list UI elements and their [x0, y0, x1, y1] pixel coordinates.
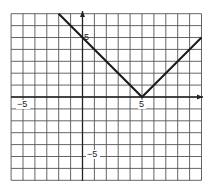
x-axis-arrow-icon: [197, 95, 203, 100]
x-tick-label-neg5: −5: [17, 99, 27, 109]
y-tick-label-5: 5: [84, 32, 89, 42]
x-tick-label-5: 5: [139, 99, 144, 109]
y-tick-label-neg5: −5: [87, 149, 97, 159]
graph-canvas: −5 5 5 −5: [0, 0, 211, 194]
